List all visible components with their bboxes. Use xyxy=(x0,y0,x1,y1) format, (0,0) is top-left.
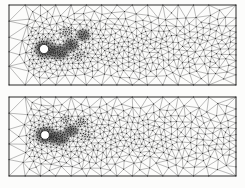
refined-region-shading xyxy=(64,125,78,136)
mesh-figure-canvas xyxy=(0,0,245,188)
cylinder-hole xyxy=(39,44,48,53)
cylinder-hole xyxy=(41,131,50,140)
figure xyxy=(0,0,245,188)
figure-background xyxy=(0,0,245,188)
